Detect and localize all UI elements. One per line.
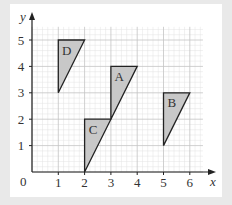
triangle-label-d: D — [62, 43, 71, 58]
y-axis-label: y — [18, 9, 26, 24]
triangle-label-a: A — [115, 69, 125, 84]
y-axis-arrow-icon — [29, 12, 35, 20]
y-tick-label: 1 — [18, 138, 25, 153]
y-tick-label: 2 — [18, 112, 25, 127]
triangle-label-c: C — [89, 122, 98, 137]
origin-label: 0 — [20, 174, 27, 189]
x-tick-label: 2 — [81, 175, 88, 190]
x-tick-label: 5 — [160, 175, 167, 190]
y-tick-label: 5 — [18, 33, 25, 48]
y-tick-label: 4 — [18, 59, 25, 74]
x-tick-label: 6 — [187, 175, 194, 190]
triangles: ABCD — [58, 40, 190, 172]
x-tick-label: 3 — [108, 175, 115, 190]
coordinate-grid: ABCD 12345612345 x y 0 — [0, 0, 232, 205]
x-tick-label: 1 — [55, 175, 62, 190]
y-tick-label: 3 — [18, 85, 25, 100]
triangle-label-b: B — [168, 95, 177, 110]
x-axis-label: x — [209, 174, 216, 189]
x-tick-label: 4 — [134, 175, 141, 190]
